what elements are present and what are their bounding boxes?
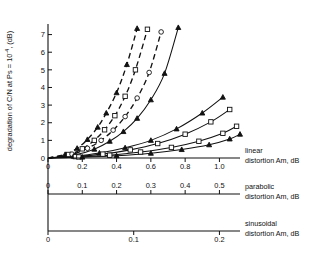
marker-square bbox=[108, 153, 112, 157]
linear-tick-label: 0.4 bbox=[111, 162, 121, 171]
parabolic-tick-label: 0.4 bbox=[180, 181, 190, 190]
parabolic-tick-label: 0 bbox=[46, 181, 50, 190]
parabolic-tick-label: 0.2 bbox=[111, 181, 121, 190]
parabolic-axis-label-line2: distortion Am, dB bbox=[245, 192, 300, 201]
marker-triangle bbox=[162, 71, 167, 76]
linear-tick-label: 0.8 bbox=[180, 162, 190, 171]
marker-triangle bbox=[95, 125, 100, 130]
marker-triangle bbox=[92, 147, 97, 152]
marker-square bbox=[234, 124, 238, 128]
marker-circle bbox=[159, 30, 164, 35]
marker-circle bbox=[85, 146, 90, 151]
sinusoidal-axis-ticks: 00.10.2 bbox=[46, 231, 225, 244]
linear-axis-ticks: 00.20.40.60.81.0 bbox=[46, 158, 225, 171]
marker-square bbox=[156, 141, 160, 145]
parabolic-axis-ticks: 00.10.20.30.40.5 bbox=[46, 181, 225, 194]
chart-markers bbox=[63, 25, 243, 159]
marker-triangle bbox=[107, 139, 112, 144]
linear-axis-label-line2: distortion Am, dB bbox=[245, 156, 300, 165]
marker-triangle bbox=[114, 153, 119, 158]
y-tick-label: 7 bbox=[41, 30, 45, 39]
y-tick-label: 1 bbox=[41, 136, 45, 145]
parabolic-tick-label: 0.3 bbox=[146, 181, 156, 190]
y-axis-title: degradation of C/N at Ps = 10-4, (dB) bbox=[4, 31, 14, 151]
marker-square bbox=[123, 94, 127, 98]
sinusoidal-tick-label: 0 bbox=[46, 235, 50, 244]
marker-triangle bbox=[148, 138, 153, 143]
y-axis-title-text: degradation of C/N at Ps = 10-4, (dB) bbox=[4, 31, 14, 151]
marker-triangle bbox=[227, 136, 232, 141]
y-tick-label: 4 bbox=[41, 83, 45, 92]
marker-square bbox=[221, 131, 225, 135]
series-line-dashed-circle bbox=[48, 32, 161, 158]
marker-triangle bbox=[220, 95, 225, 100]
sinusoidal-axis: 00.10.2 sinusoidal distortion Am, dB bbox=[46, 194, 300, 244]
marker-triangle bbox=[123, 145, 128, 150]
marker-circle bbox=[147, 70, 152, 75]
marker-square bbox=[209, 120, 213, 124]
y-tick-label: 0 bbox=[41, 154, 45, 163]
y-axis: 01234567 bbox=[41, 24, 52, 163]
marker-triangle bbox=[124, 62, 129, 67]
sinusoidal-axis-label-line1: sinusoidal bbox=[245, 219, 277, 228]
marker-circle bbox=[99, 138, 104, 143]
chart-curves bbox=[48, 28, 240, 158]
y-tick-label: 6 bbox=[41, 48, 45, 57]
marker-circle bbox=[111, 128, 116, 133]
marker-square bbox=[145, 27, 149, 31]
sinusoidal-axis-label-line2: distortion Am, dB bbox=[245, 229, 300, 238]
marker-square bbox=[133, 68, 137, 72]
marker-triangle bbox=[135, 26, 140, 31]
marker-triangle bbox=[114, 90, 119, 95]
marker-square bbox=[228, 107, 232, 111]
linear-tick-label: 1.0 bbox=[214, 162, 224, 171]
marker-triangle bbox=[238, 132, 243, 137]
distortion-degradation-chart: 01234567 degradation of C/N at Ps = 10-4… bbox=[0, 0, 330, 258]
parabolic-tick-label: 0.5 bbox=[214, 181, 224, 190]
marker-triangle bbox=[179, 147, 184, 152]
marker-triangle bbox=[174, 126, 179, 131]
linear-tick-label: 0.2 bbox=[77, 162, 87, 171]
marker-square bbox=[128, 148, 132, 152]
marker-triangle bbox=[104, 110, 109, 115]
series-line-dashed-square bbox=[48, 29, 147, 158]
marker-square bbox=[169, 145, 173, 149]
linear-tick-label: 0.6 bbox=[146, 162, 156, 171]
marker-triangle bbox=[75, 146, 80, 151]
marker-circle bbox=[135, 96, 140, 101]
marker-square bbox=[80, 147, 84, 151]
y-tick-label: 3 bbox=[41, 101, 45, 110]
sinusoidal-tick-label: 0.2 bbox=[214, 235, 224, 244]
marker-square bbox=[197, 139, 201, 143]
marker-square bbox=[183, 132, 187, 136]
sinusoidal-tick-label: 0.1 bbox=[129, 235, 139, 244]
y-axis-ticks: 01234567 bbox=[41, 30, 52, 162]
marker-square bbox=[92, 138, 96, 142]
y-tick-label: 2 bbox=[41, 118, 45, 127]
y-title-tail: , (dB) bbox=[5, 31, 14, 49]
parabolic-axis-label-line1: parabolic bbox=[245, 182, 275, 191]
marker-triangle bbox=[200, 110, 205, 115]
linear-axis-label-line1: linear bbox=[245, 146, 263, 155]
marker-square bbox=[101, 152, 105, 156]
parabolic-tick-label: 0.1 bbox=[77, 181, 87, 190]
marker-triangle bbox=[176, 25, 181, 30]
marker-circle bbox=[123, 114, 128, 119]
y-title-main: degradation of C/N at Ps = 10 bbox=[5, 54, 14, 152]
marker-square bbox=[113, 113, 117, 117]
y-tick-label: 5 bbox=[41, 66, 45, 75]
marker-square bbox=[102, 128, 106, 132]
marker-triangle bbox=[207, 142, 212, 147]
series-line-solid-triangle-steep bbox=[48, 28, 178, 158]
marker-square bbox=[138, 150, 142, 154]
